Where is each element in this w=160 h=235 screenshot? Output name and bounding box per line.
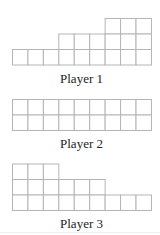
grid-cell: [136, 195, 151, 211]
grid-cell: [43, 164, 58, 180]
grid-cell: [28, 164, 43, 180]
grid-cell: [13, 50, 28, 66]
grid-cell: [121, 195, 136, 211]
grid-cell: [59, 195, 74, 211]
grid-cell: [90, 180, 105, 196]
player-1-grid: [13, 19, 152, 66]
grid-cell: [13, 195, 28, 211]
grid-cell: [74, 100, 89, 116]
grid-cell: [105, 115, 120, 131]
grid-cell: [121, 115, 136, 131]
grid-cell: [136, 50, 151, 66]
grid-cell: [90, 195, 105, 211]
grid-cell: [13, 180, 28, 196]
grid-cell: [28, 50, 43, 66]
player-grids: [0, 0, 160, 235]
grid-cell: [121, 100, 136, 116]
grid-cell: [43, 115, 58, 131]
grid-cell: [28, 180, 43, 196]
divider: [0, 232, 160, 233]
player-2-grid: [13, 100, 152, 131]
grid-cell: [59, 180, 74, 196]
grid-cell: [105, 34, 120, 50]
player-2-label: Player 2: [0, 137, 160, 151]
grid-cell: [136, 115, 151, 131]
grid-cell: [90, 50, 105, 66]
player-3-label: Player 3: [0, 217, 160, 231]
grid-cell: [90, 115, 105, 131]
grid-cell: [105, 19, 120, 35]
grid-cell: [136, 34, 151, 50]
grid-cell: [59, 100, 74, 116]
grid-cell: [90, 34, 105, 50]
grid-cell: [121, 50, 136, 66]
grid-cell: [28, 195, 43, 211]
grid-cell: [105, 100, 120, 116]
grid-cell: [136, 100, 151, 116]
grid-cell: [13, 164, 28, 180]
grid-cell: [74, 195, 89, 211]
grid-cell: [136, 19, 151, 35]
grid-cell: [121, 19, 136, 35]
grid-cell: [74, 115, 89, 131]
grid-cell: [105, 50, 120, 66]
grid-cell: [59, 50, 74, 66]
grid-cell: [43, 180, 58, 196]
grid-cell: [121, 34, 136, 50]
grid-cell: [28, 100, 43, 116]
player-1-label: Player 1: [0, 72, 160, 86]
grid-cell: [13, 115, 28, 131]
grid-cell: [13, 100, 28, 116]
grid-cell: [43, 100, 58, 116]
grid-cell: [74, 50, 89, 66]
grid-cell: [28, 115, 43, 131]
grid-cell: [74, 180, 89, 196]
grid-cell: [43, 50, 58, 66]
grid-cell: [105, 195, 120, 211]
grid-cell: [59, 115, 74, 131]
grid-cell: [74, 34, 89, 50]
grid-cell: [90, 100, 105, 116]
player-3-grid: [13, 164, 152, 211]
grid-cell: [43, 195, 58, 211]
grid-cell: [59, 34, 74, 50]
